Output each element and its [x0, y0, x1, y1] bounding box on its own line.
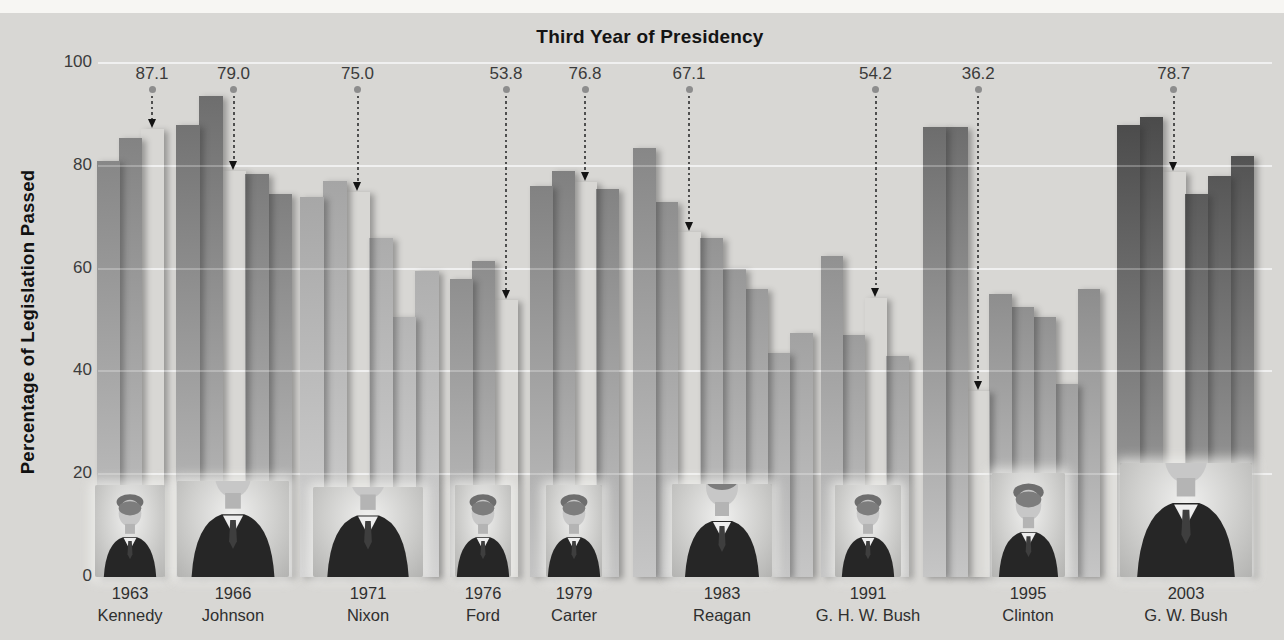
carter-photo-silhouette	[546, 485, 602, 577]
annotation-dot	[686, 86, 693, 93]
ford-photo-silhouette	[455, 485, 511, 577]
ford-photo	[455, 485, 511, 577]
annotation-dotted-line	[875, 96, 877, 289]
annotation-value-label: 53.8	[461, 64, 551, 84]
annotation-dot	[354, 86, 361, 93]
gridline-overlay	[98, 473, 1272, 475]
johnson-photo	[177, 481, 289, 577]
annotation-dotted-line	[233, 96, 235, 162]
gw-bush-photo-silhouette	[1120, 463, 1252, 577]
annotation-dotted-line	[688, 96, 690, 223]
annotation-arrowhead-icon	[581, 172, 589, 181]
chart-title: Third Year of Presidency	[350, 26, 950, 48]
chart-page: Third Year of Presidency Percentage of L…	[0, 0, 1284, 640]
annotation-dot	[230, 86, 237, 93]
gridline-overlay	[98, 268, 1272, 270]
year-label: 1979	[489, 584, 659, 603]
clinton-photo-silhouette	[992, 473, 1065, 577]
y-axis-title: Percentage of Legislation Passed	[17, 170, 39, 475]
annotation-dotted-line	[977, 96, 979, 382]
clinton-bar	[923, 127, 946, 577]
annotation-value-label: 67.1	[644, 64, 734, 84]
president-name-label: G. W. Bush	[1091, 606, 1281, 625]
annotation-arrowhead-icon	[871, 288, 879, 297]
y-tick-label: 40	[32, 360, 92, 380]
annotation-dot	[872, 86, 879, 93]
clinton-bar	[945, 127, 968, 577]
y-tick-label: 60	[32, 258, 92, 278]
annotation-dot	[582, 86, 589, 93]
annotation-dotted-line	[505, 96, 507, 291]
year-label: 2003	[1101, 584, 1271, 603]
annotation-dot	[503, 86, 510, 93]
nixon-photo-silhouette	[313, 487, 423, 577]
y-tick-label: 80	[32, 155, 92, 175]
ghw-bush-photo-silhouette	[835, 485, 901, 577]
annotation-dot	[975, 86, 982, 93]
annotation-arrowhead-icon	[148, 119, 156, 128]
annotation-arrowhead-icon	[502, 290, 510, 299]
clinton-bar	[967, 391, 990, 577]
reagan-bar	[633, 148, 656, 577]
annotation-value-label: 54.2	[831, 64, 921, 84]
annotation-dot	[1170, 86, 1177, 93]
annotation-dotted-line	[584, 96, 586, 173]
carter-photo	[546, 485, 602, 577]
annotation-arrowhead-icon	[685, 222, 693, 231]
y-tick-label: 100	[32, 52, 92, 72]
annotation-value-label: 75.0	[313, 64, 403, 84]
ghw-bush-photo	[835, 485, 901, 577]
gridline-overlay	[98, 370, 1272, 372]
year-label: 1983	[637, 584, 807, 603]
kennedy-photo-silhouette	[95, 485, 165, 577]
annotation-arrowhead-icon	[1169, 162, 1177, 171]
year-label: 1991	[783, 584, 953, 603]
clinton-photo	[992, 473, 1065, 577]
annotation-dotted-line	[151, 96, 153, 120]
y-tick-label: 0	[32, 566, 92, 586]
annotation-arrowhead-icon	[974, 381, 982, 390]
page-top-margin	[0, 0, 1284, 13]
annotation-arrowhead-icon	[229, 161, 237, 170]
y-tick-label: 20	[32, 463, 92, 483]
johnson-photo-silhouette	[177, 481, 289, 577]
annotation-dotted-line	[357, 96, 359, 183]
kennedy-photo	[95, 485, 165, 577]
clinton-bar	[1078, 289, 1101, 577]
annotation-value-label: 78.7	[1129, 64, 1219, 84]
annotation-value-label: 79.0	[189, 64, 279, 84]
annotation-value-label: 36.2	[933, 64, 1023, 84]
reagan-photo	[672, 484, 772, 577]
annotation-value-label: 76.8	[540, 64, 630, 84]
reagan-photo-silhouette	[672, 484, 772, 577]
annotation-dotted-line	[1173, 96, 1175, 163]
annotation-value-label: 87.1	[107, 64, 197, 84]
gw-bush-photo	[1120, 463, 1252, 577]
nixon-photo	[313, 487, 423, 577]
annotation-dot	[149, 86, 156, 93]
year-label: 1995	[943, 584, 1113, 603]
gridline-overlay	[98, 165, 1272, 167]
annotation-arrowhead-icon	[353, 182, 361, 191]
